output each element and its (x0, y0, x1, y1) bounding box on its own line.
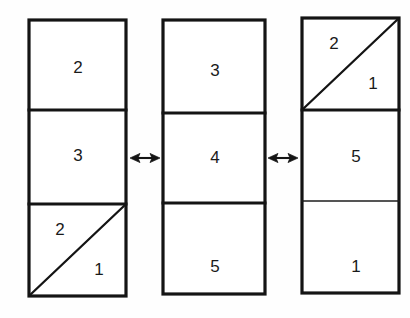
column-right-top-cell-upper-triangle-label: 2 (329, 34, 338, 53)
column-right-bottom-cell-label: 1 (351, 257, 360, 276)
column-left-bottom-cell-upper-triangle-label: 2 (55, 220, 64, 239)
column-middle-middle-cell-label: 4 (210, 148, 219, 167)
column-right-top-cell-lower-triangle-label: 1 (368, 74, 377, 93)
diagram-canvas: 2 3 2 1 3 4 5 (0, 0, 410, 318)
column-middle-top-cell-label: 3 (210, 61, 219, 80)
column-middle-bottom-cell-label: 5 (210, 257, 219, 276)
arrow-middle-right (268, 153, 298, 162)
column-right-middle-cell-label: 5 (351, 147, 360, 166)
column-left-top-cell-label: 2 (73, 58, 82, 77)
column-left-middle-cell-label: 3 (73, 146, 82, 165)
column-middle: 3 4 5 (163, 20, 265, 294)
arrow-left-middle (130, 153, 160, 162)
column-right: 2 1 5 1 (302, 18, 399, 293)
column-left: 2 3 2 1 (29, 20, 126, 296)
column-left-bottom-cell-lower-triangle-label: 1 (94, 260, 103, 279)
figure-svg: 2 3 2 1 3 4 5 (0, 0, 410, 318)
